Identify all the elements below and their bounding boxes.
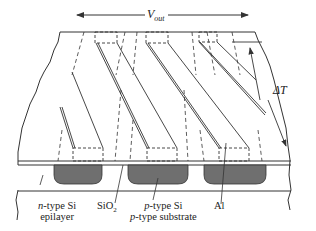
p-type-regions [54,165,266,184]
delta-t-label: ΔT [273,84,287,97]
thermocouple-strips [60,42,266,148]
al-label: Al [214,200,225,211]
chip-outline [16,32,291,220]
p-type-label: p-type Si p-type substrate [130,200,197,222]
vout-label: Vout [147,8,165,24]
delta-t-arrow [250,48,286,146]
n-type-label: n-type Si epilayer [38,200,76,222]
diagram-drawing [0,0,316,231]
contacts [73,32,262,161]
thermopile-diagram: Vout ΔT n-type Si epilayer SiO2 p-type S… [0,0,316,231]
sio2-label: SiO2 [97,200,117,214]
dashed-guides [58,32,262,161]
vout-subscript: out [154,14,164,23]
